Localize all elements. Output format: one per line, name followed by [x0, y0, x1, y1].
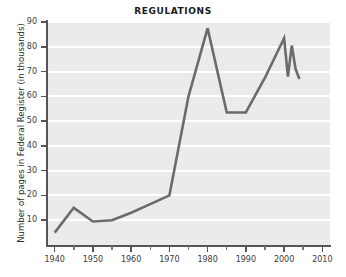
y-tick-label: 20 — [0, 190, 37, 199]
y-tick-label: 80 — [0, 42, 37, 51]
y-tick-label: 40 — [0, 141, 37, 150]
x-tick-minor — [73, 246, 75, 250]
y-axis-line — [46, 20, 48, 247]
x-tick — [130, 246, 132, 252]
x-tick-minor — [150, 246, 152, 250]
y-tick-label: 70 — [0, 67, 37, 76]
x-tick-label: 1990 — [226, 255, 266, 264]
y-tick — [41, 219, 47, 221]
x-tick-label: 1940 — [35, 255, 75, 264]
x-tick — [207, 246, 209, 252]
x-tick-label: 1960 — [111, 255, 151, 264]
x-tick-label: 1980 — [188, 255, 228, 264]
x-tick-label: 1970 — [149, 255, 189, 264]
y-tick-label: 30 — [0, 166, 37, 175]
y-tick — [41, 21, 47, 23]
x-tick-label: 2000 — [264, 255, 304, 264]
x-tick — [54, 246, 56, 252]
y-tick — [41, 46, 47, 48]
chart-figure: REGULATIONS Number of pages in Federal R… — [0, 0, 346, 277]
y-axis-title: Number of pages in Federal Register (in … — [16, 18, 26, 248]
x-tick-minor — [226, 246, 228, 250]
y-tick-label: 90 — [0, 17, 37, 26]
data-series-line — [47, 22, 330, 245]
plot-area — [47, 22, 330, 245]
y-tick-label: 60 — [0, 91, 37, 100]
x-tick — [92, 246, 94, 252]
x-tick-label: 1950 — [73, 255, 113, 264]
y-tick — [41, 71, 47, 73]
y-tick — [41, 195, 47, 197]
x-tick-minor — [264, 246, 266, 250]
y-tick-label: 10 — [0, 215, 37, 224]
chart-title: REGULATIONS — [0, 6, 346, 16]
x-tick-minor — [111, 246, 113, 250]
y-tick — [41, 170, 47, 172]
x-tick-minor — [188, 246, 190, 250]
y-tick-label: 50 — [0, 116, 37, 125]
x-tick-minor — [302, 246, 304, 250]
x-tick — [169, 246, 171, 252]
x-tick — [322, 246, 324, 252]
x-tick — [283, 246, 285, 252]
y-tick — [41, 145, 47, 147]
y-tick — [41, 96, 47, 98]
y-tick — [41, 120, 47, 122]
x-tick-label: 2010 — [302, 255, 342, 264]
x-tick — [245, 246, 247, 252]
